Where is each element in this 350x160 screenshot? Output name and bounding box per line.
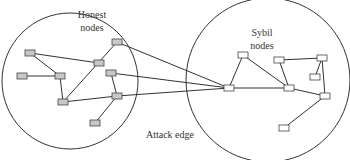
honest-node [106, 70, 116, 76]
sybil-label-line1: Sybil [251, 27, 272, 38]
sybil-attack-diagram: Honest nodes Sybil nodes Attack edge [0, 0, 350, 160]
honest-node [17, 73, 27, 79]
honest-node [112, 39, 122, 45]
nodes-group [17, 39, 330, 131]
sybil-node [320, 93, 330, 99]
graph-edge [63, 96, 117, 102]
sybil-node [310, 74, 320, 80]
honest-node [58, 99, 68, 105]
sybil-node [284, 85, 294, 91]
honest-node [94, 60, 104, 66]
honest-node [90, 120, 100, 126]
sybil-node [317, 55, 327, 61]
attack-edges-group [111, 42, 229, 96]
attack-edge [117, 88, 229, 96]
sybil-node [238, 52, 248, 58]
sybil-node [274, 57, 284, 63]
honest-node [55, 73, 65, 79]
graph-edge [284, 96, 325, 128]
attack-edge-label: Attack edge [146, 129, 195, 140]
graph-edge [229, 55, 243, 88]
graph-edge [111, 73, 117, 96]
honest-node [112, 93, 122, 99]
graph-edge [60, 76, 63, 102]
sybil-label-line2: nodes [250, 40, 273, 51]
honest-label-line1: Honest [78, 9, 107, 20]
sybil-node [279, 125, 289, 131]
honest-node [25, 50, 35, 56]
graph-edge [95, 96, 117, 123]
edges-group [22, 42, 325, 128]
graph-edge [279, 58, 322, 60]
honest-label-line2: nodes [80, 22, 103, 33]
sybil-node [224, 85, 234, 91]
graph-edge [322, 58, 325, 96]
honest-region-circle [2, 13, 138, 149]
